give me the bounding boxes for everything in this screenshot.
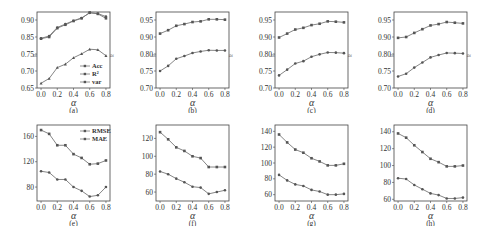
y-tick-label: 0.70 [378, 84, 391, 93]
x-tick-label: 0.6 [204, 90, 214, 99]
subplot-h: 60801001201400.00.20.40.60.8α(h) [357, 113, 476, 226]
y-tick-label: 120 [261, 143, 273, 152]
x-tick-label: 0.8 [101, 203, 111, 212]
series-line-rmse [160, 132, 225, 167]
figure-grid: ≈≈0.650.700.750.850.900.00.20.40.60.8α(a… [0, 0, 478, 227]
x-tick-label: 0.6 [442, 90, 452, 99]
y-tick-label: 80 [265, 174, 273, 183]
y-tick-label: 0.70 [140, 84, 153, 93]
y-tick-label: 0.75 [21, 50, 34, 59]
chart-svg: ≈≈0.700.750.800.900.950.00.20.40.60.8α(b… [119, 0, 238, 113]
x-tick-label: 0.2 [172, 203, 182, 212]
series-line-rmse [279, 135, 344, 166]
chart-svg: 801201600.00.20.40.60.8α(e)RMSEMAE [0, 113, 119, 226]
x-tick-label: 0.8 [339, 203, 349, 212]
series-line-mae [160, 171, 225, 193]
legend-entry: RMSE [92, 127, 111, 134]
x-tick-label: 0.2 [410, 90, 420, 99]
axes-frame [156, 125, 229, 201]
y-tick-label: 0.95 [140, 16, 153, 25]
subplot-e: 801201600.00.20.40.60.8α(e)RMSEMAE [0, 113, 119, 226]
subplot-d: ≈≈0.700.750.800.900.950.00.20.40.60.8α(d… [357, 0, 476, 113]
subplot-caption: (b) [188, 106, 197, 113]
y-tick-label: 0.70 [21, 67, 34, 76]
legend-entry: R² [92, 70, 99, 77]
x-tick-label: 0.2 [172, 90, 182, 99]
axes-frame [275, 12, 348, 88]
y-tick-label: 0.85 [21, 33, 34, 42]
y-tick-label: 0.75 [259, 67, 272, 76]
svg-text:≈: ≈ [467, 52, 471, 60]
series-line-acc [279, 21, 344, 37]
x-tick-label: 0.8 [458, 90, 468, 99]
subplot-caption: (g) [307, 219, 316, 226]
x-tick-label: 0.6 [204, 203, 214, 212]
y-tick-label: 120 [142, 134, 154, 143]
y-tick-label: 0.95 [378, 16, 391, 25]
y-tick-label: 60 [384, 195, 392, 204]
subplot-caption: (c) [307, 106, 316, 113]
x-tick-label: 0.6 [442, 203, 452, 212]
subplot-f: 60801001200.00.20.40.60.8α(f) [119, 113, 238, 226]
chart-svg: ≈≈0.700.750.800.900.950.00.20.40.60.8α(c… [238, 0, 357, 113]
y-tick-label: 120 [380, 144, 392, 153]
subplot-a: ≈≈0.650.700.750.850.900.00.20.40.60.8α(a… [0, 0, 119, 113]
series-line-mae [398, 178, 463, 198]
x-tick-label: 0.0 [393, 90, 403, 99]
x-tick-label: 0.8 [458, 203, 468, 212]
chart-svg: ≈≈0.700.750.800.900.950.00.20.40.60.8α(d… [357, 0, 476, 113]
y-tick-label: 0.80 [259, 50, 272, 59]
y-tick-label: 0.80 [378, 50, 391, 59]
x-tick-label: 0.2 [410, 203, 420, 212]
legend: AccR²var [80, 62, 103, 85]
x-tick-label: 0.0 [36, 203, 46, 212]
legend: RMSEMAE [80, 127, 111, 142]
subplot-caption: (e) [69, 219, 78, 226]
x-tick-label: 0.6 [85, 90, 95, 99]
y-tick-label: 0.90 [259, 33, 272, 42]
x-tick-label: 0.8 [220, 203, 230, 212]
chart-svg: 60801001200.00.20.40.60.8α(f) [119, 113, 238, 226]
subplot-caption: (a) [69, 106, 78, 113]
series-line-rmse [398, 133, 463, 166]
subplot-c: ≈≈0.700.750.800.900.950.00.20.40.60.8α(c… [238, 0, 357, 113]
y-tick-label: 0.90 [378, 33, 391, 42]
y-tick-label: 0.75 [378, 67, 391, 76]
y-tick-label: 80 [384, 178, 392, 187]
series-line-mae [41, 171, 106, 196]
subplot-caption: (d) [426, 106, 435, 113]
legend-entry: var [92, 78, 102, 85]
x-tick-label: 0.8 [220, 90, 230, 99]
y-tick-label: 140 [261, 127, 273, 136]
chart-svg: 60801001201400.00.20.40.60.8α(g) [238, 113, 357, 226]
subplot-g: 60801001201400.00.20.40.60.8α(g) [238, 113, 357, 226]
x-tick-label: 0.8 [101, 90, 111, 99]
svg-text:≈: ≈ [348, 52, 352, 60]
x-tick-label: 0.6 [323, 90, 333, 99]
y-tick-label: 160 [23, 132, 35, 141]
x-tick-label: 0.8 [339, 90, 349, 99]
y-tick-label: 60 [265, 190, 273, 199]
subplot-caption: (h) [426, 219, 435, 226]
y-tick-label: 100 [142, 152, 154, 161]
x-tick-label: 0.2 [53, 203, 63, 212]
x-tick-label: 0.0 [36, 90, 46, 99]
y-tick-label: 0.90 [21, 16, 34, 25]
y-tick-label: 0.80 [140, 50, 153, 59]
x-tick-label: 0.0 [274, 203, 284, 212]
legend-entry: Acc [92, 62, 103, 69]
y-tick-label: 100 [380, 161, 392, 170]
series-line-r [41, 13, 106, 39]
y-tick-label: 0.95 [259, 16, 272, 25]
chart-svg: 60801001201400.00.20.40.60.8α(h) [357, 113, 476, 226]
legend-entry: MAE [92, 135, 107, 142]
y-tick-label: 0.75 [140, 67, 153, 76]
svg-text:≈: ≈ [110, 52, 114, 60]
x-tick-label: 0.0 [155, 203, 165, 212]
axes-frame [37, 12, 110, 88]
y-tick-label: 80 [27, 183, 35, 192]
subplot-caption: (f) [189, 219, 197, 226]
subplot-b: ≈≈0.700.750.800.900.950.00.20.40.60.8α(b… [119, 0, 238, 113]
y-tick-label: 120 [23, 157, 35, 166]
x-tick-label: 0.6 [323, 203, 333, 212]
